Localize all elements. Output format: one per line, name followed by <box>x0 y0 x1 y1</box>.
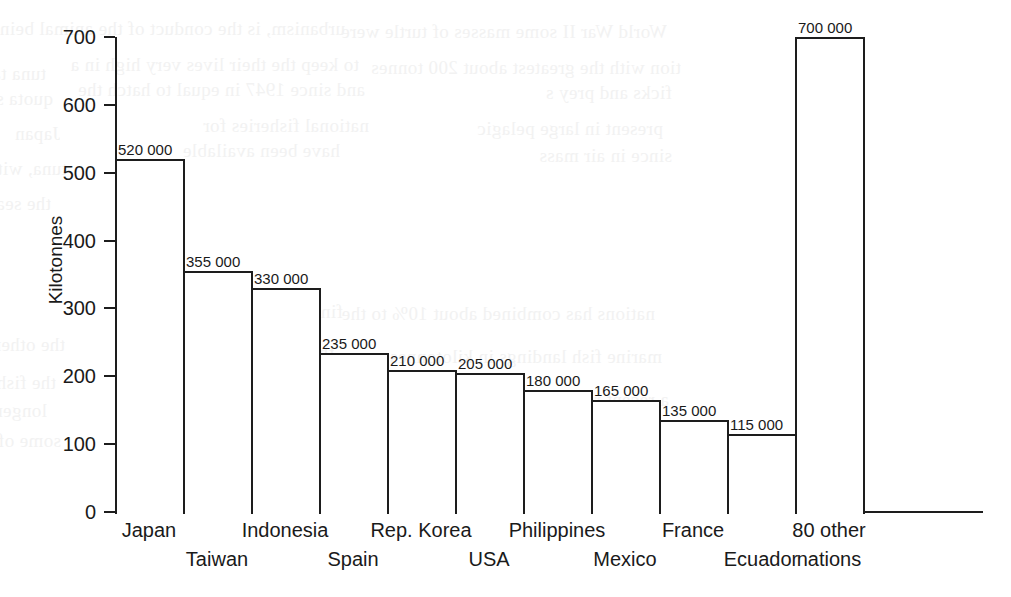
bar-value-label: 520 000 <box>118 142 172 157</box>
bar <box>319 353 389 514</box>
x-axis-label: 80 other <box>792 520 865 540</box>
bar-value-label: 235 000 <box>322 336 376 351</box>
x-axis-label: Indonesia <box>242 520 329 540</box>
bar-chart: Kilotonnes 0100200300400500600700 520 00… <box>0 0 1011 597</box>
bar-value-label: 115 000 <box>730 417 783 432</box>
bar-value-label: 165 000 <box>594 383 648 398</box>
bar <box>659 420 729 514</box>
y-axis-tick-label: 500 <box>36 163 96 183</box>
y-axis-tick <box>104 240 115 242</box>
bar <box>387 370 457 515</box>
bar <box>727 434 797 514</box>
x-axis-label: Mexico <box>593 549 656 569</box>
bar-value-label: 205 000 <box>458 356 512 371</box>
y-axis-tick-label: 400 <box>36 231 96 251</box>
bar <box>795 37 865 514</box>
bar-value-label: 180 000 <box>526 373 580 388</box>
bar <box>523 390 593 514</box>
bar-value-label: 330 000 <box>254 271 308 286</box>
y-axis-tick <box>104 375 115 377</box>
x-axis-label: nations <box>797 549 862 569</box>
x-axis-label: Taiwan <box>186 549 248 569</box>
bar <box>591 400 661 514</box>
y-axis-tick-label: 300 <box>36 298 96 318</box>
bar <box>455 373 525 514</box>
bar <box>251 288 321 514</box>
y-axis-tick-label: 200 <box>36 366 96 386</box>
y-axis-tick <box>104 36 115 38</box>
bar <box>183 271 253 514</box>
y-axis-tick-label: 0 <box>36 502 96 522</box>
x-axis-label: USA <box>468 549 509 569</box>
y-axis-tick-label: 100 <box>36 434 96 454</box>
y-axis-tick <box>104 104 115 106</box>
x-axis-label: Japan <box>122 520 177 540</box>
x-axis-label: France <box>662 520 724 540</box>
y-axis-tick-label: 700 <box>36 27 96 47</box>
x-axis-label: Spain <box>327 549 378 569</box>
y-axis-tick <box>104 511 115 513</box>
bar-value-label: 210 000 <box>390 353 444 368</box>
x-axis-label: Philippines <box>509 520 606 540</box>
y-axis-tick <box>104 443 115 445</box>
x-axis-label: Rep. Korea <box>370 520 471 540</box>
bar-value-label: 700 000 <box>798 20 852 35</box>
y-axis-tick <box>104 172 115 174</box>
y-axis-tick-label: 600 <box>36 95 96 115</box>
bar-value-label: 135 000 <box>662 403 716 418</box>
x-axis-label: Ecuador <box>724 549 799 569</box>
bar <box>115 159 185 514</box>
y-axis-tick <box>104 307 115 309</box>
bar-value-label: 355 000 <box>186 254 240 269</box>
